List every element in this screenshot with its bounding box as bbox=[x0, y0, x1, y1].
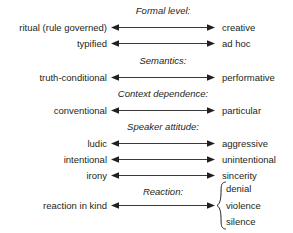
scale-left-label: typified bbox=[77, 37, 107, 50]
scale-left-label: truth-conditional bbox=[39, 71, 107, 84]
section-header-formal-level: Formal level: bbox=[136, 5, 190, 16]
scale-left-label: conventional bbox=[54, 104, 107, 117]
section-header-reaction: Reaction: bbox=[143, 186, 183, 197]
scale-right-label: unintentional bbox=[222, 153, 276, 166]
list-item: violence bbox=[226, 198, 292, 215]
scale-left-label: ludic bbox=[87, 137, 107, 150]
double-headed-arrow-icon bbox=[111, 21, 215, 34]
section-header-speaker-attitude: Speaker attitude: bbox=[127, 121, 199, 132]
scale-row-conventional-particular: conventional particular bbox=[0, 104, 293, 117]
scale-left-label: ritual (rule governed) bbox=[19, 21, 107, 34]
double-headed-arrow-icon bbox=[111, 71, 215, 84]
scale-right-label: ad hoc bbox=[222, 37, 251, 50]
scale-right-label: aggressive bbox=[222, 137, 268, 150]
scale-row-typified-adhoc: typified ad hoc bbox=[0, 37, 293, 50]
reaction-outcomes-list: denial violence silence bbox=[226, 181, 292, 231]
scale-row-ludic-aggressive: ludic aggressive bbox=[0, 137, 293, 150]
section-header-context-dependence: Context dependence: bbox=[118, 88, 208, 99]
scale-row-truthconditional-performative: truth-conditional performative bbox=[0, 71, 293, 84]
scale-row-intentional-unintentional: intentional unintentional bbox=[0, 153, 293, 166]
double-headed-arrow-icon bbox=[111, 169, 215, 182]
scale-right-label: performative bbox=[222, 71, 275, 84]
scale-row-ritual-creative: ritual (rule governed) creative bbox=[0, 21, 293, 34]
double-headed-arrow-icon bbox=[111, 199, 215, 212]
double-headed-arrow-icon bbox=[111, 137, 215, 150]
list-item: denial bbox=[226, 181, 292, 198]
scale-dimensions-diagram: Formal level: ritual (rule governed) cre… bbox=[0, 0, 293, 233]
reaction-outcomes-group: denial violence silence bbox=[216, 181, 293, 231]
double-headed-arrow-icon bbox=[111, 104, 215, 117]
scale-left-label: irony bbox=[86, 169, 107, 182]
scale-left-label: intentional bbox=[64, 153, 107, 166]
scale-right-label: particular bbox=[222, 104, 261, 117]
double-headed-arrow-icon bbox=[111, 153, 215, 166]
scale-left-label: reaction in kind bbox=[43, 199, 107, 212]
section-header-semantics: Semantics: bbox=[140, 55, 187, 66]
double-headed-arrow-icon bbox=[111, 37, 215, 50]
list-item: silence bbox=[226, 214, 292, 231]
scale-right-label: creative bbox=[222, 21, 255, 34]
